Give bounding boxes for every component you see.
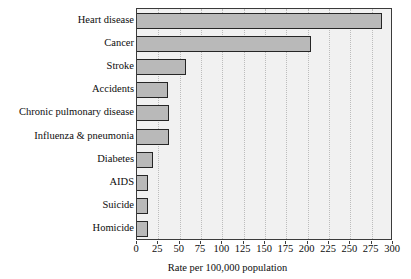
- x-tick-label: 150: [256, 243, 272, 255]
- bar-row: [137, 198, 391, 214]
- bar: [137, 105, 169, 121]
- bar: [137, 129, 169, 145]
- category-label: Stroke: [2, 60, 134, 71]
- x-tick-label: 100: [213, 243, 229, 255]
- x-tick-label: 275: [363, 243, 379, 255]
- x-tick-label: 25: [152, 243, 163, 255]
- x-tick-label: 50: [173, 243, 184, 255]
- x-axis-title: Rate per 100,000 population: [0, 261, 411, 274]
- category-label: Homicide: [2, 222, 134, 233]
- bar: [137, 36, 311, 52]
- x-tick-label: 300: [384, 243, 400, 255]
- bar: [137, 82, 168, 98]
- category-axis-labels: Heart diseaseCancerStrokeAccidentsChroni…: [0, 8, 134, 240]
- x-tick-label: 200: [299, 243, 315, 255]
- bar-chart: Heart diseaseCancerStrokeAccidentsChroni…: [0, 0, 411, 279]
- category-label: Heart disease: [2, 14, 134, 25]
- bar-row: [137, 13, 391, 29]
- bar-row: [137, 175, 391, 191]
- plot-area: [136, 8, 392, 240]
- bar: [137, 198, 148, 214]
- bar: [137, 175, 148, 191]
- x-tick-label: 225: [320, 243, 336, 255]
- bar-row: [137, 129, 391, 145]
- x-tick-label: 250: [341, 243, 357, 255]
- x-tick-label: 75: [195, 243, 206, 255]
- bar: [137, 221, 148, 237]
- x-axis: 0255075100125150175200225250275300: [136, 241, 392, 257]
- category-label: Influenza & pneumonia: [2, 130, 134, 141]
- bar: [137, 152, 153, 168]
- bar: [137, 13, 382, 29]
- category-label: AIDS: [2, 176, 134, 187]
- x-axis-title-text: Rate per 100,000 population: [168, 261, 288, 274]
- bar-row: [137, 105, 391, 121]
- category-label: Accidents: [2, 83, 134, 94]
- category-label: Chronic pulmonary disease: [2, 106, 134, 117]
- category-label: Cancer: [2, 37, 134, 48]
- x-tick-label: 125: [235, 243, 251, 255]
- bar-row: [137, 59, 391, 75]
- bar-row: [137, 152, 391, 168]
- bar-row: [137, 82, 391, 98]
- x-tick-label: 175: [277, 243, 293, 255]
- bar-row: [137, 221, 391, 237]
- category-label: Diabetes: [2, 153, 134, 164]
- bar: [137, 59, 186, 75]
- bar-row: [137, 36, 391, 52]
- category-label: Suicide: [2, 199, 134, 210]
- x-tick-label: 0: [133, 243, 138, 255]
